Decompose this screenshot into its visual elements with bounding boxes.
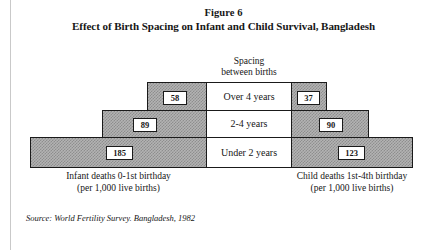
category-label-2-4-years: 2-4 years xyxy=(206,110,292,138)
value-left-2-4-years: 89 xyxy=(133,118,157,132)
category-label-under-2-years: Under 2 years xyxy=(206,137,292,168)
value-right-2-4-years: 90 xyxy=(319,118,343,132)
source-note: Source: World Fertility Survey. Banglade… xyxy=(26,213,195,224)
axis-label-child-deaths-line2: (per 1,000 live births) xyxy=(291,183,413,195)
value-left-over-4-years: 58 xyxy=(163,91,187,105)
axis-label-infant-deaths-line1: Infant deaths 0-1st birthday xyxy=(66,171,171,181)
value-right-over-4-years: 37 xyxy=(297,91,320,105)
axis-label-infant-deaths: Infant deaths 0-1st birthday (per 1,000 … xyxy=(30,171,207,194)
axis-label-child-deaths-line1: Child deaths 1st-4th birthday xyxy=(297,171,408,181)
axis-label-infant-deaths-line2: (per 1,000 live births) xyxy=(30,183,207,195)
axis-label-child-deaths: Child deaths 1st-4th birthday (per 1,000… xyxy=(291,171,413,194)
value-left-under-2-years: 185 xyxy=(106,146,133,160)
value-right-under-2-years: 123 xyxy=(338,146,365,160)
category-label-over-4-years: Over 4 years xyxy=(206,82,292,111)
